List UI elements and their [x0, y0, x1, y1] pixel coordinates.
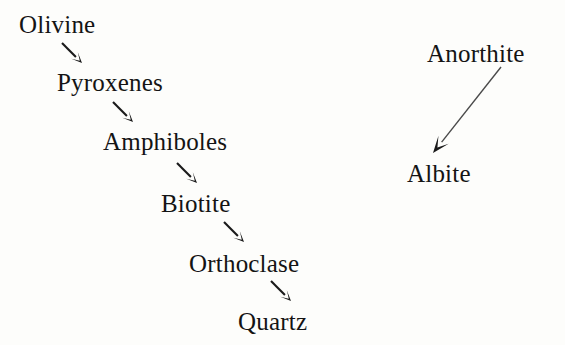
- arrow-orthoclase-to-quartz: [271, 281, 291, 301]
- node-pyroxenes: Pyroxenes: [57, 70, 163, 95]
- node-biotite: Biotite: [161, 191, 230, 216]
- arrow-amphiboles-to-biotite: [177, 163, 197, 183]
- bowens-reaction-series-diagram: Olivine Pyroxenes Amphiboles Biotite Ort…: [0, 0, 565, 345]
- node-olivine: Olivine: [19, 12, 95, 37]
- arrow-biotite-to-orthoclase: [224, 222, 244, 242]
- arrow-pyroxenes-to-amphiboles: [113, 102, 133, 122]
- arrow-olivine-to-pyroxenes: [62, 43, 82, 63]
- arrow-anorthite-to-albite: [433, 67, 501, 153]
- node-quartz: Quartz: [238, 309, 307, 334]
- node-albite: Albite: [407, 161, 471, 186]
- node-amphiboles: Amphiboles: [103, 129, 227, 154]
- node-orthoclase: Orthoclase: [189, 251, 299, 276]
- node-anorthite: Anorthite: [427, 41, 525, 66]
